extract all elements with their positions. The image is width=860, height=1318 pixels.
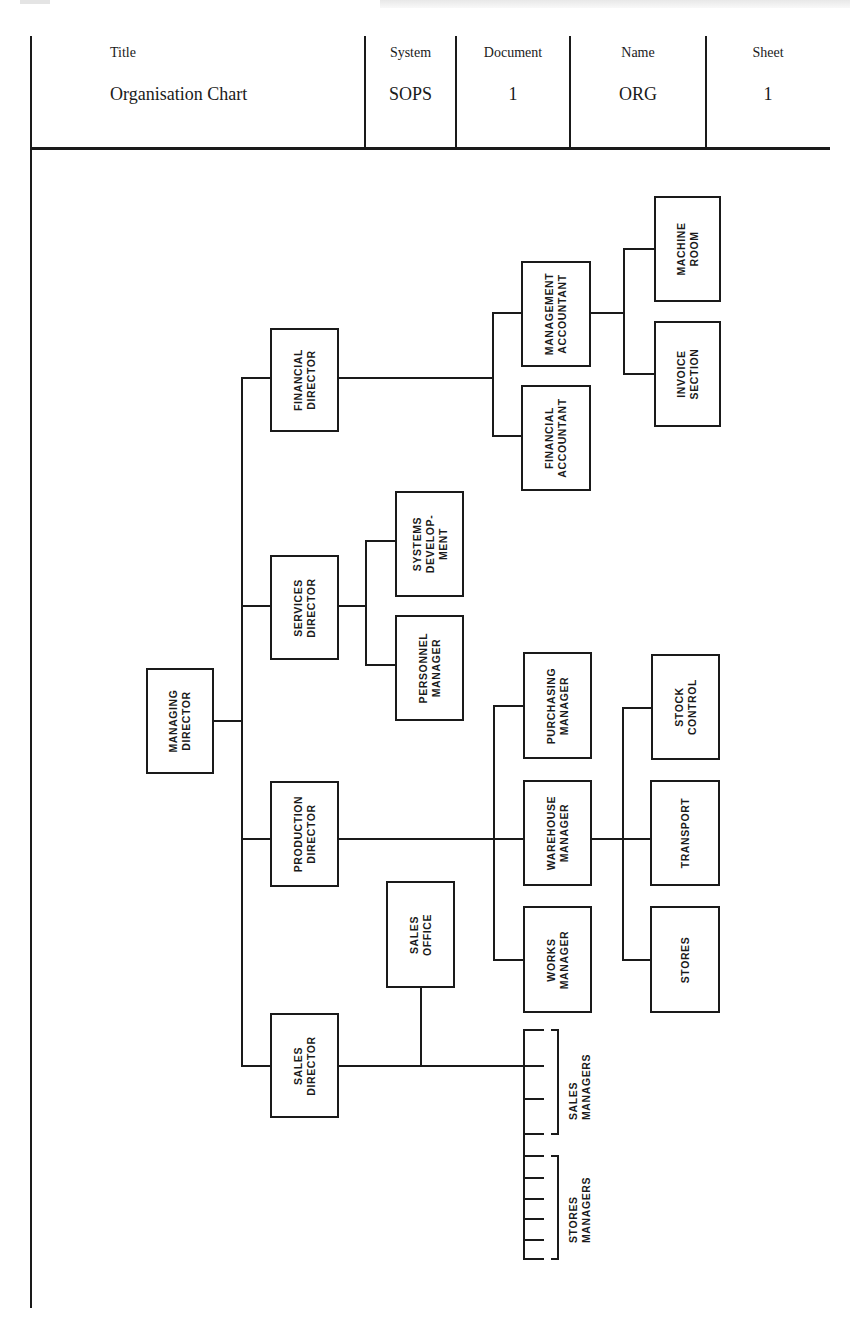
connector <box>493 959 525 961</box>
node-label: SALESOFFICE <box>408 913 434 955</box>
sales-manager-tick <box>524 1098 544 1100</box>
node-label: PERSONNELMANAGER <box>417 633 443 704</box>
label-stores-managers: STORESMANAGERS <box>567 1177 593 1243</box>
connector <box>590 838 652 840</box>
connector <box>420 986 422 1066</box>
sales-manager-tick <box>524 1029 544 1031</box>
connector <box>622 707 653 709</box>
stores-manager-tick <box>524 1198 544 1200</box>
connector <box>241 838 272 840</box>
connector <box>365 540 367 666</box>
left-border <box>30 36 32 1308</box>
node-label: SYSTEMSDEVELOP-MENT <box>410 515 449 573</box>
stores-manager-tick <box>524 1239 544 1241</box>
stores-manager-tick <box>524 1218 544 1220</box>
document-label: Document <box>457 45 569 61</box>
sales-manager-tick <box>524 1133 544 1135</box>
node-financial-director: FINANCIALDIRECTOR <box>270 328 339 432</box>
node-sales-director: SALESDIRECTOR <box>270 1013 339 1118</box>
node-invoice-section: INVOICESECTION <box>654 321 721 427</box>
connector <box>492 312 523 314</box>
node-label: WORKSMANAGER <box>545 930 571 988</box>
cropped-running-header <box>380 0 850 8</box>
node-label: PRODUCTIONDIRECTOR <box>292 796 318 873</box>
node-production-director: PRODUCTIONDIRECTOR <box>270 781 339 887</box>
node-label: FINANCIALDIRECTOR <box>292 349 318 411</box>
title-value: Organisation Chart <box>110 84 247 105</box>
node-stock-control: STOCKCONTROL <box>651 654 720 760</box>
sheet-value: 1 <box>707 84 829 105</box>
connector <box>493 705 495 961</box>
sheet-label: Sheet <box>707 45 829 61</box>
stores-manager-tick <box>524 1258 544 1260</box>
connector <box>622 707 624 961</box>
node-label: SERVICESDIRECTOR <box>292 578 318 637</box>
connector <box>523 1029 525 1260</box>
connector <box>338 605 367 607</box>
node-label: MANAGINGDIRECTOR <box>167 689 193 752</box>
connector <box>492 435 523 437</box>
node-systems-development: SYSTEMSDEVELOP-MENT <box>395 491 464 597</box>
node-managing-director: MANAGINGDIRECTOR <box>146 668 214 774</box>
node-label: STOCKCONTROL <box>673 679 699 735</box>
connector <box>623 373 656 375</box>
node-label: TRANSPORT <box>679 798 692 869</box>
connector <box>213 720 243 722</box>
connector <box>338 838 525 840</box>
node-financial-accountant: FINANCIALACCOUNTANT <box>521 385 591 491</box>
node-transport: TRANSPORT <box>650 780 720 886</box>
node-label: PURCHASINGMANAGER <box>545 667 571 744</box>
node-works-manager: WORKSMANAGER <box>523 906 592 1013</box>
connector <box>338 377 494 379</box>
system-label: System <box>366 45 455 61</box>
node-label: MACHINEROOM <box>675 222 701 275</box>
node-stores: STORES <box>650 906 720 1013</box>
connector <box>365 540 397 542</box>
node-purchasing-manager: PURCHASINGMANAGER <box>523 652 592 759</box>
name-label: Name <box>571 45 705 61</box>
node-label: SALESDIRECTOR <box>292 1036 318 1095</box>
document-value: 1 <box>457 84 569 105</box>
node-label: STORES <box>679 936 692 983</box>
connector <box>241 377 272 379</box>
connector <box>241 1065 272 1067</box>
node-warehouse-manager: WAREHOUSEMANAGER <box>523 780 592 886</box>
node-services-director: SERVICESDIRECTOR <box>270 555 339 660</box>
node-sales-office: SALESOFFICE <box>386 881 455 988</box>
label-sales-managers: SALESMANAGERS <box>567 1054 593 1120</box>
node-label: INVOICESECTION <box>675 349 701 400</box>
node-label: WAREHOUSEMANAGER <box>545 796 571 870</box>
name-value: ORG <box>571 84 705 105</box>
connector <box>590 312 625 314</box>
connector <box>623 248 625 375</box>
title-label: Title <box>110 45 136 61</box>
connector <box>241 605 272 607</box>
connector <box>493 705 525 707</box>
connector-spine <box>241 377 243 1067</box>
system-value: SOPS <box>366 84 455 105</box>
title-block-bottom-rule <box>30 147 830 150</box>
cropped-page-number <box>20 0 50 4</box>
connector <box>365 664 397 666</box>
stores-manager-tick <box>524 1155 544 1157</box>
connector <box>492 312 494 437</box>
connector <box>622 959 653 961</box>
node-personnel-manager: PERSONNELMANAGER <box>395 615 464 721</box>
node-label: MANAGEMENTACCOUNTANT <box>543 273 569 355</box>
connector <box>338 1065 544 1067</box>
stores-manager-tick <box>524 1177 544 1179</box>
node-management-accountant: MANAGEMENTACCOUNTANT <box>521 261 591 367</box>
node-label: FINANCIALACCOUNTANT <box>543 398 569 477</box>
node-machine-room: MACHINEROOM <box>654 196 721 302</box>
connector <box>623 248 656 250</box>
